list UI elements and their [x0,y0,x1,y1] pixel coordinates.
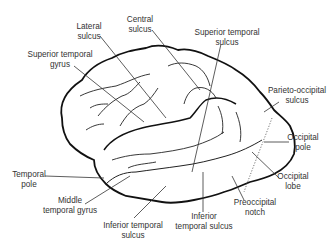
label-middle-temporal-gyrus: Middle temporal gyrus [43,196,97,215]
label-occipital-lobe: Occipital lobe [277,172,308,191]
label-lateral-sulcus: Lateral sulcus [76,22,101,41]
parieto-occipital-dotted-line [244,118,272,192]
label-temporal-pole: Temporal pole [12,170,46,189]
label-occipital-pole: Occipital pole [287,133,318,152]
label-superior-temporal-sulcus: Superior temporal sulcus [194,28,259,47]
label-inferior-temporal-sulcus-left: Inferior temporal sulcus [103,221,163,240]
label-superior-temporal-gyrus: Superior temporal gyrus [27,50,92,69]
brain-outline [61,46,295,203]
label-preoccipital-notch: Preoccipital notch [234,198,276,217]
sulci-lines [80,63,241,168]
label-central-sulcus: Central sulcus [127,15,153,34]
inferior-temporal-boundary [106,140,262,184]
label-parieto-occipital-sulcus: Parieto-occipital sulcus [268,86,326,105]
label-inferior-temporal-sulcus-right: Inferior temporal sulcus [175,212,232,231]
